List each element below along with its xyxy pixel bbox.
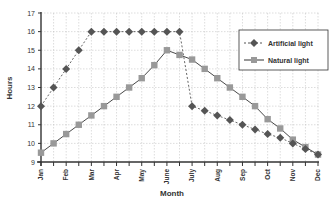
square-marker	[63, 131, 69, 137]
y-tick-label: 16	[27, 28, 35, 35]
diamond-marker	[100, 28, 108, 36]
y-tick-label: 13	[27, 84, 35, 91]
diamond-marker	[62, 65, 70, 73]
y-tick-label: 15	[27, 47, 35, 54]
legend-item-artificial-light: Artificial light	[244, 39, 313, 48]
diamond-marker	[226, 116, 234, 124]
square-marker	[126, 84, 132, 90]
diamond-marker	[176, 28, 184, 36]
square-marker	[151, 62, 157, 68]
square-marker	[252, 103, 258, 109]
diamond-marker	[251, 125, 259, 133]
square-marker	[88, 112, 94, 118]
diamond-marker	[163, 28, 171, 36]
line-chart: 91011121314151617 JanFebMarAprMayJuneJul…	[0, 0, 335, 205]
y-axis-title: Hours	[5, 76, 14, 100]
legend: Artificial light Natural light	[239, 30, 328, 70]
square-marker	[189, 56, 195, 62]
square-marker	[38, 149, 44, 155]
square-marker	[139, 75, 145, 81]
y-tick-label: 10	[27, 140, 35, 147]
x-axis-ticks: JanFebMarAprMayJuneJulyAugSepOctNovDec	[37, 162, 321, 184]
square-marker	[76, 122, 82, 128]
diamond-marker	[75, 46, 83, 54]
diamond-marker	[125, 28, 133, 36]
y-tick-label: 9	[31, 159, 35, 166]
square-marker	[101, 103, 107, 109]
x-axis-title: Month	[160, 189, 184, 198]
x-tick-label: Nov	[289, 169, 296, 182]
diamond-marker	[113, 28, 121, 36]
x-tick-label: Dec	[314, 169, 321, 181]
y-tick-label: 11	[28, 121, 35, 128]
diamond-marker	[150, 28, 158, 36]
x-tick-label: Aug	[214, 169, 222, 182]
square-marker	[201, 66, 207, 72]
diamond-marker	[264, 130, 272, 138]
diamond-marker	[87, 28, 95, 36]
diamond-marker	[188, 102, 196, 110]
square-marker	[113, 94, 119, 100]
square-marker	[176, 52, 182, 58]
x-tick-label: Sep	[239, 169, 247, 181]
square-marker-icon	[251, 57, 257, 63]
diamond-marker	[37, 102, 45, 110]
square-marker	[277, 125, 283, 131]
diamond-marker	[213, 111, 221, 119]
square-marker	[164, 47, 170, 53]
square-marker	[264, 116, 270, 122]
square-marker	[50, 140, 56, 146]
x-tick-label: May	[138, 169, 146, 182]
y-axis-ticks: 91011121314151617	[27, 10, 41, 166]
y-tick-label: 12	[27, 103, 35, 110]
diamond-marker	[138, 28, 146, 36]
y-tick-label: 17	[27, 10, 35, 17]
legend-label-natural: Natural light	[268, 57, 310, 65]
square-marker	[214, 75, 220, 81]
x-tick-label: Mar	[88, 169, 95, 181]
legend-box	[239, 30, 328, 70]
x-tick-label: Apr	[113, 169, 121, 181]
x-tick-label: Jan	[37, 169, 44, 180]
legend-label-artificial: Artificial light	[268, 40, 313, 48]
square-marker	[239, 94, 245, 100]
x-tick-label: June	[163, 169, 170, 185]
diamond-marker	[238, 121, 246, 129]
diamond-marker	[276, 134, 284, 142]
x-tick-label: July	[188, 169, 196, 182]
x-tick-label: Oct	[264, 168, 271, 180]
diamond-marker	[50, 84, 58, 92]
diamond-marker	[201, 107, 209, 115]
square-marker	[227, 84, 233, 90]
x-tick-label: Feb	[62, 169, 69, 181]
y-tick-label: 14	[27, 65, 35, 72]
